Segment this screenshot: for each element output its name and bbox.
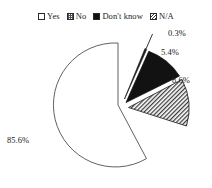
value-label-dont-know: 5.4%	[161, 47, 179, 57]
legend-label-na: N/A	[159, 11, 174, 21]
legend-swatch-icon-yes	[38, 13, 45, 20]
pie-chart-figure: Yes No Don't know N/A	[0, 0, 212, 188]
legend-item-yes: Yes	[38, 11, 60, 21]
leader-line-na	[146, 34, 153, 49]
legend-label-no: No	[76, 11, 87, 21]
value-label-yes: 85.6%	[7, 135, 29, 145]
legend-swatch-icon-dont-know	[93, 13, 100, 20]
legend-item-na: N/A	[150, 11, 174, 21]
legend-label-yes: Yes	[47, 11, 60, 21]
legend-item-no: No	[67, 11, 87, 21]
legend-swatch-icon-no	[67, 13, 74, 20]
legend-swatch-icon-na	[150, 13, 157, 20]
chart-plot-area: 0.3% 5.4% 8.6% 85.6%	[0, 22, 212, 188]
value-label-na: 0.3%	[168, 28, 186, 38]
pie-chart-svg	[0, 22, 212, 188]
legend-label-dont-know: Don't know	[102, 11, 143, 21]
legend-item-dont-know: Don't know	[93, 11, 143, 21]
value-label-no: 8.6%	[172, 75, 190, 85]
